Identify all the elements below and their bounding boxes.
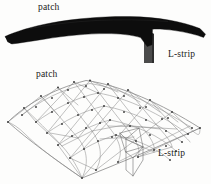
- lstrip-label-top: L-strip: [168, 50, 195, 60]
- figure-container: patch L-strip patch L-strip: [0, 0, 211, 184]
- patch-label-mesh: patch: [36, 70, 58, 80]
- lstrip-label-mesh: L-strip: [158, 149, 185, 159]
- patch-label-top: patch: [38, 3, 60, 13]
